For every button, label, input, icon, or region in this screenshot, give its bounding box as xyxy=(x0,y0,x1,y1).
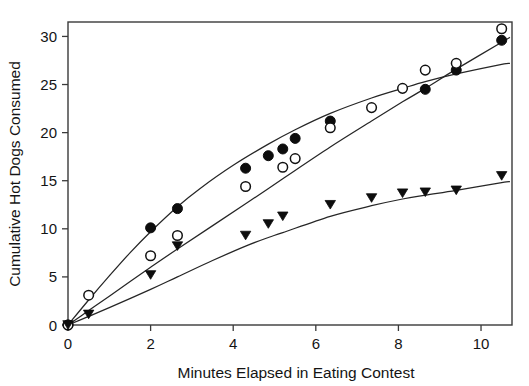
data-point-filled-triangle xyxy=(278,212,288,221)
data-point-filled-circle xyxy=(263,151,273,161)
x-tick-label: 6 xyxy=(312,335,320,352)
data-point-filled-circle xyxy=(420,84,430,94)
y-tick-label: 0 xyxy=(49,317,57,334)
x-tick-label: 10 xyxy=(473,335,490,352)
data-point-open-circle xyxy=(367,103,377,113)
data-point-open-circle xyxy=(278,162,288,172)
y-axis-title: Cumulative Hot Dogs Consumed xyxy=(6,61,23,287)
data-point-filled-circle xyxy=(241,163,251,173)
data-point-filled-triangle xyxy=(366,194,376,203)
x-tick-label: 0 xyxy=(64,335,72,352)
data-point-open-circle xyxy=(241,182,251,192)
y-tick-label: 15 xyxy=(40,172,57,189)
y-tick-label: 20 xyxy=(40,124,57,141)
data-point-open-circle xyxy=(497,24,507,34)
data-point-filled-triangle xyxy=(240,231,250,240)
filled-circles-fit xyxy=(68,63,510,325)
series-filled-triangles xyxy=(63,172,507,330)
data-point-filled-circle xyxy=(290,133,300,143)
data-point-filled-circle xyxy=(278,144,288,154)
data-point-filled-triangle xyxy=(397,189,407,198)
data-point-filled-triangle xyxy=(145,271,155,280)
data-point-open-circle xyxy=(325,123,335,133)
data-point-filled-triangle xyxy=(496,172,506,181)
open-circles-fit xyxy=(68,37,510,325)
x-tick-label: 8 xyxy=(394,335,402,352)
tick-marks xyxy=(62,36,481,331)
data-point-filled-circle xyxy=(497,35,507,45)
scatter-plot: Cumulative Hot Dogs Consumed Minutes Ela… xyxy=(0,0,529,386)
data-point-open-circle xyxy=(451,59,461,69)
y-tick-label: 10 xyxy=(40,220,57,237)
x-tick-label: 2 xyxy=(146,335,154,352)
data-point-open-circle xyxy=(173,231,183,241)
data-point-open-circle xyxy=(84,290,94,300)
data-point-open-circle xyxy=(420,65,430,75)
fit-lines xyxy=(68,37,510,325)
data-point-open-circle xyxy=(146,251,156,261)
x-axis-title: Minutes Elapsed in Eating Contest xyxy=(178,364,416,381)
data-point-filled-triangle xyxy=(325,200,335,209)
chart-figure: Cumulative Hot Dogs Consumed Minutes Ela… xyxy=(0,0,529,386)
y-tick-label: 5 xyxy=(49,268,57,285)
x-tick-label: 4 xyxy=(229,335,237,352)
data-point-open-circle xyxy=(290,154,300,164)
y-tick-label: 25 xyxy=(40,76,57,93)
data-point-filled-triangle xyxy=(263,220,273,229)
data-point-filled-circle xyxy=(172,204,182,214)
y-tick-label: 30 xyxy=(40,28,57,45)
data-point-filled-circle xyxy=(146,223,156,233)
data-point-open-circle xyxy=(398,84,408,94)
filled-triangles-fit xyxy=(68,182,510,325)
